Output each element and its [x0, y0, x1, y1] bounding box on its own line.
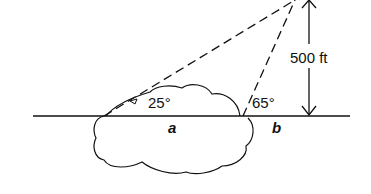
- height-label: 500 ft: [290, 49, 328, 66]
- angle-right-label: 65°: [252, 94, 275, 111]
- segment-a-label: a: [168, 119, 176, 136]
- angle-left-label: 25°: [148, 94, 171, 111]
- cloud-top: [106, 85, 240, 116]
- segment-b-label: b: [272, 119, 281, 136]
- cloud-diagram: 500 ft 25° 65° a b: [0, 0, 371, 194]
